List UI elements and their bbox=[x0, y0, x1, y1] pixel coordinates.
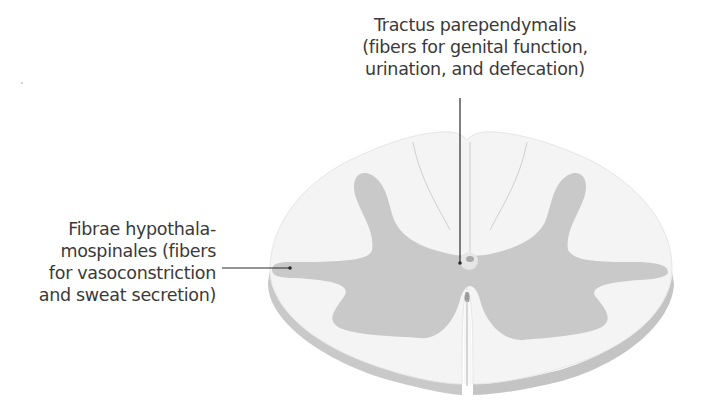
stray-dot bbox=[21, 82, 23, 84]
label-line: for vasoconstriction bbox=[0, 262, 216, 284]
label-line: and sweat secretion) bbox=[0, 284, 216, 306]
label-line: urination, and defecation) bbox=[330, 58, 620, 80]
leader-dot-left bbox=[288, 266, 292, 270]
label-line: Fibrae hypothala- bbox=[0, 218, 216, 240]
label-line: Tractus parependymalis bbox=[330, 14, 620, 36]
diagram-stage: Tractus parependymalis (fibers for genit… bbox=[0, 0, 708, 402]
leader-dot-top bbox=[458, 261, 462, 265]
label-tractus-parependymalis: Tractus parependymalis (fibers for genit… bbox=[330, 14, 620, 80]
label-fibrae-hypothalamospinales: Fibrae hypothala- mospinales (fibers for… bbox=[0, 218, 216, 306]
central-canal bbox=[466, 256, 474, 262]
label-line: mospinales (fibers bbox=[0, 240, 216, 262]
label-line: (fibers for genital function, bbox=[330, 36, 620, 58]
